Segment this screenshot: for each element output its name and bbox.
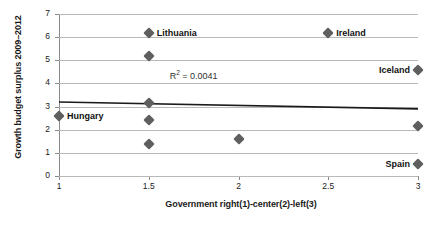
gridline <box>59 176 418 177</box>
x-axis-title: Government right(1)-center(2)-left(3) <box>58 199 424 209</box>
y-tick-label: 0 <box>30 170 50 180</box>
y-tick-label: 3 <box>30 101 50 111</box>
trendline <box>59 14 418 176</box>
x-tick-mark <box>418 176 419 180</box>
y-tick-label: 2 <box>30 124 50 134</box>
data-point-label: Spain <box>385 159 410 169</box>
x-tick-label: 1.5 <box>134 181 164 191</box>
x-tick-label: 1 <box>44 181 74 191</box>
data-point-label: Hungary <box>67 111 104 121</box>
x-tick-label: 2 <box>224 181 254 191</box>
y-tick-label: 5 <box>30 54 50 64</box>
y-axis-title: Growth budget surplus 2009–2012 <box>13 0 23 177</box>
y-tick-label: 7 <box>30 8 50 18</box>
data-point-label: Lithuania <box>157 28 197 38</box>
data-point-label: Ireland <box>336 28 366 38</box>
scatter-chart: Growth budget surplus 2009–2012 01234567… <box>0 0 426 225</box>
y-tick-label: 6 <box>30 31 50 41</box>
plot-area: HungaryLithuaniaIrelandIcelandSpain R2 =… <box>59 14 418 176</box>
x-tick-label: 3 <box>403 181 426 191</box>
y-tick-label: 4 <box>30 77 50 87</box>
data-point-label: Iceland <box>379 65 410 75</box>
x-tick-label: 2.5 <box>313 181 343 191</box>
y-tick-label: 1 <box>30 147 50 157</box>
trendline-path <box>59 102 418 109</box>
r-squared-annotation: R2 = 0.0041 <box>170 69 218 81</box>
